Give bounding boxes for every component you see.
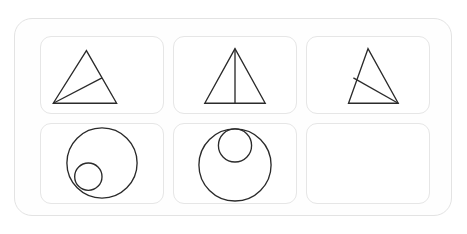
outer-circle bbox=[67, 128, 137, 198]
cell-figure-1 bbox=[41, 37, 163, 113]
outer-triangle bbox=[349, 49, 399, 104]
shape-matrix-grid bbox=[40, 36, 429, 204]
matrix-cell-1[interactable] bbox=[40, 36, 164, 114]
cell-figure-3 bbox=[307, 37, 429, 113]
shape-matrix-panel bbox=[14, 18, 452, 216]
inner-circle bbox=[218, 129, 251, 162]
inner-circle bbox=[75, 163, 102, 190]
shape-matrix-puzzle bbox=[0, 0, 467, 234]
outer-circle bbox=[199, 129, 271, 201]
matrix-cell-3[interactable] bbox=[306, 36, 430, 114]
cell-figure-2 bbox=[174, 37, 296, 113]
matrix-cell-6-answer-slot[interactable] bbox=[306, 123, 430, 204]
matrix-cell-4[interactable] bbox=[40, 123, 164, 204]
outer-triangle bbox=[53, 51, 116, 104]
matrix-cell-2[interactable] bbox=[173, 36, 297, 114]
cell-figure-4 bbox=[41, 124, 163, 203]
matrix-cell-5[interactable] bbox=[173, 123, 297, 204]
cell-figure-5 bbox=[174, 124, 296, 203]
